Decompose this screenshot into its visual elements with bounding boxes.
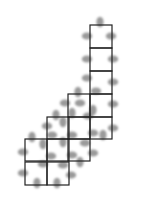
oval-marker: [47, 131, 57, 138]
oval-marker: [82, 74, 92, 81]
oval-marker: [75, 99, 85, 106]
oval-marker: [108, 78, 118, 85]
oval-marker: [108, 55, 118, 62]
oval-marker: [74, 87, 81, 97]
grid-cells: [25, 25, 112, 185]
oval-marker: [18, 148, 28, 155]
oval-marker: [82, 32, 92, 39]
oval-marker: [28, 132, 35, 142]
oval-marker: [76, 157, 83, 167]
oval-marker: [66, 171, 76, 178]
oval-marker: [52, 110, 59, 120]
oval-marker: [108, 124, 118, 131]
oval-marker: [18, 169, 28, 176]
oval-marker: [33, 178, 40, 188]
oval-marker: [59, 137, 66, 147]
oval-marker: [82, 55, 92, 62]
oval-marker: [106, 32, 116, 39]
oval-marker: [96, 17, 103, 27]
oval-marker: [59, 117, 66, 127]
oval-marker: [39, 139, 46, 149]
oval-marker: [60, 99, 70, 106]
oval-marker: [108, 100, 118, 107]
oval-marker: [88, 149, 98, 156]
oval-marker: [83, 112, 93, 119]
tiled-grid-diagram: [0, 0, 147, 206]
oval-marker: [53, 178, 60, 188]
oval-marker: [80, 139, 90, 146]
oval-marker: [88, 129, 98, 136]
